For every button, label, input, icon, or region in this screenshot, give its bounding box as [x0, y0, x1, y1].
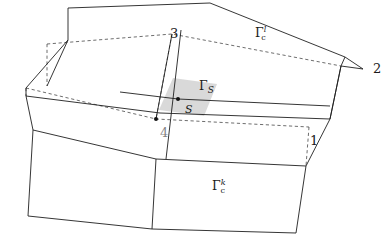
marker-point-s: [176, 97, 180, 101]
gamma-k-subscript: c: [221, 186, 225, 195]
label-vertex-2: 2: [373, 62, 381, 75]
label-gamma-c-superscript-k: Γkc: [212, 180, 230, 193]
gamma-glyph-s: Γ: [199, 80, 208, 93]
geometry-diagram: [0, 0, 388, 235]
label-vertex-3: 3: [170, 27, 178, 40]
marker-point-4: [154, 117, 158, 121]
label-point-s: S: [185, 104, 193, 115]
gamma-l-subscript: c: [261, 33, 265, 42]
gamma-glyph-k: Γ: [212, 180, 221, 193]
label-vertex-1: 1: [310, 134, 318, 147]
gamma-s-subscript: S: [208, 85, 214, 95]
label-gamma-s: ΓS: [199, 80, 214, 93]
label-vertex-4: 4: [160, 126, 168, 139]
label-gamma-c-superscript-l: Γlc: [255, 27, 271, 40]
contact-line-through-s: [120, 92, 330, 106]
